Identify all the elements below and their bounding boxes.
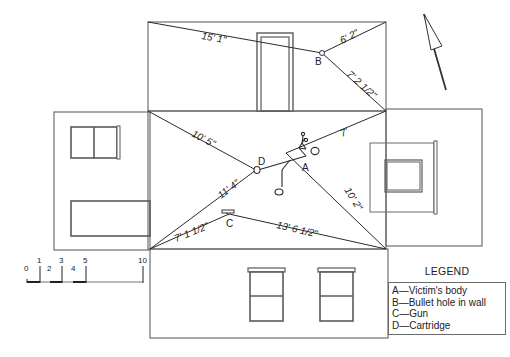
legend-item-a: A—Victim's body: [392, 285, 502, 297]
bullet-hole-marker: [320, 51, 325, 56]
scale-bar: 0 1 2 3 4 5 10: [24, 256, 147, 283]
measurement-b-top-left: 15' 1": [201, 30, 228, 45]
window-right-wall: [370, 141, 437, 214]
legend-item-d: D—Cartridge: [392, 320, 502, 332]
scale-tick-2: 2: [47, 264, 52, 273]
scale-tick-1: 1: [37, 256, 42, 265]
label-d: D: [258, 156, 265, 167]
scale-tick-4: 4: [71, 264, 76, 273]
window-bottom-wall-2: [318, 268, 355, 321]
scale-tick-5: 5: [83, 256, 88, 265]
measurement-b-bottom-right: 7' 2 1/2": [345, 68, 379, 101]
legend-item-c: C—Gun: [392, 308, 502, 320]
measurement-a-top-right: 7': [338, 125, 350, 138]
cartridge-marker: [254, 167, 260, 174]
label-c: C: [226, 218, 233, 229]
window-bottom-wall-1: [248, 268, 285, 321]
window-left-wall: [71, 126, 120, 159]
label-a: A: [302, 162, 309, 173]
measurement-b-top-right: 6' 2": [338, 27, 361, 46]
north-arrow-icon: [424, 14, 446, 90]
label-b: B: [315, 56, 322, 67]
measurement-d-bottom-left: 11' 4": [216, 177, 242, 201]
victim-head-marker: [311, 147, 319, 154]
measurement-d-top-left: 10' 5": [190, 128, 218, 149]
measurement-a-bottom-right: 10' 2": [342, 185, 365, 212]
measurement-c-bottom-right: 13' 6 1/2": [276, 219, 319, 239]
victim-body-figure: [258, 132, 308, 195]
scale-tick-3: 3: [59, 256, 64, 265]
scale-tick-0: 0: [24, 264, 29, 273]
legend-box: A—Victim's body B—Bullet hole in wall C—…: [388, 282, 506, 335]
scale-tick-10: 10: [138, 256, 147, 265]
measurement-c-bottom-left: 7' 1 1/2": [173, 220, 211, 244]
opening-left-wall: [71, 201, 150, 236]
legend-item-b: B—Bullet hole in wall: [392, 297, 502, 309]
legend-title: LEGEND: [388, 265, 506, 277]
legend: LEGEND A—Victim's body B—Bullet hole in …: [388, 265, 506, 335]
